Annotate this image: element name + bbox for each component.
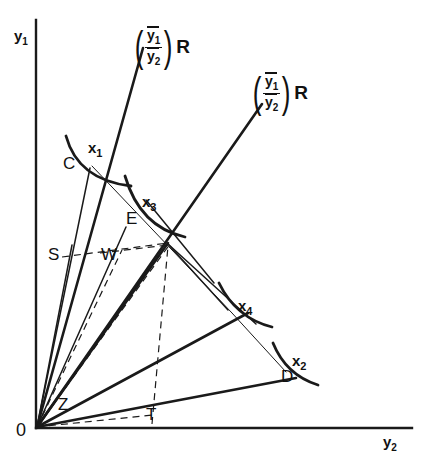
ratio-denominator-right: y2 bbox=[263, 94, 280, 113]
y1-bar-left: y1 bbox=[147, 28, 160, 46]
point-label-s: S bbox=[48, 246, 59, 263]
ratio-fraction-left: y1 y2 bbox=[145, 28, 162, 67]
point-label-w: W bbox=[101, 246, 117, 263]
point-label-x2: x2 bbox=[292, 353, 306, 372]
ray-to-d bbox=[37, 378, 296, 427]
origin-label: 0 bbox=[16, 421, 26, 439]
y2-axis-label: y2 bbox=[383, 434, 397, 453]
ratio-numerator-left: y1 bbox=[145, 28, 162, 48]
y1-bar-right: y1 bbox=[265, 74, 278, 92]
left-paren-open-icon: ( bbox=[135, 31, 144, 64]
price-ratio-label-right: ( y1 y2 ) R bbox=[250, 74, 308, 113]
right-paren-close-icon: ) bbox=[282, 77, 291, 110]
left-paren-close-icon: ) bbox=[164, 31, 173, 64]
right-paren-open-icon: ( bbox=[253, 77, 262, 110]
y2-axis-subscript: 2 bbox=[391, 442, 397, 453]
point-label-x3: x3 bbox=[142, 194, 156, 213]
point-label-c: C bbox=[63, 155, 75, 172]
point-label-z: Z bbox=[58, 396, 68, 413]
segment-e-down bbox=[168, 244, 228, 310]
dashed-line-t-vertical bbox=[152, 246, 168, 424]
ratio-denominator-left: y2 bbox=[145, 48, 162, 67]
price-ratio-ray-left bbox=[37, 48, 143, 427]
diagram-canvas: y1 y2 0 ( y1 y2 ) R ( y1 y2 ) bbox=[0, 0, 424, 470]
y1-axis-label: y1 bbox=[14, 28, 28, 47]
ratio-suffix-right: R bbox=[294, 82, 308, 104]
y2-bar-right: y2 bbox=[265, 95, 278, 113]
y2-bar-left: y2 bbox=[147, 49, 160, 67]
ratio-fraction-right: y1 y2 bbox=[263, 74, 280, 113]
ratio-suffix-left: R bbox=[176, 36, 190, 58]
y1-axis-subscript: 1 bbox=[22, 36, 28, 47]
point-label-x1: x1 bbox=[88, 140, 102, 159]
point-label-d: D bbox=[281, 368, 293, 385]
point-label-e: E bbox=[126, 210, 137, 227]
point-label-x4: x4 bbox=[238, 298, 252, 317]
ratio-numerator-right: y1 bbox=[263, 74, 280, 94]
point-label-t: T bbox=[146, 406, 156, 423]
ray-to-x4 bbox=[37, 313, 248, 427]
price-ratio-label-left: ( y1 y2 ) R bbox=[132, 28, 190, 67]
